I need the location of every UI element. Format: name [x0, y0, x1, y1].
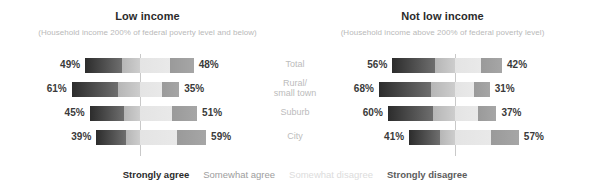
agree-percent-label: 61%: [47, 83, 67, 94]
segment-strongly-disagree: [162, 82, 179, 97]
segment-strongly-agree: [85, 58, 122, 73]
disagree-percent-label: 57%: [524, 131, 544, 142]
disagree-percent-label: 59%: [211, 131, 231, 142]
segment-somewhat-agree: [433, 106, 455, 121]
segment-somewhat-agree: [126, 130, 140, 145]
category-label-line: Rural/: [248, 78, 342, 88]
segment-strongly-agree: [392, 58, 435, 73]
segment-somewhat-agree: [435, 58, 455, 73]
segment-somewhat-disagree: [455, 82, 474, 97]
segment-strongly-disagree: [170, 58, 194, 73]
category-label: Rural/small town: [248, 78, 342, 98]
category-label: Total: [248, 59, 342, 69]
segment-strongly-disagree: [481, 58, 502, 73]
category-label-line: Suburb: [248, 107, 342, 117]
stacked-bar: [409, 130, 519, 145]
segment-somewhat-disagree: [140, 106, 172, 121]
category-label-line: City: [248, 131, 342, 141]
segment-somewhat-agree: [118, 82, 140, 97]
agree-percent-label: 45%: [65, 107, 85, 118]
disagree-percent-label: 48%: [199, 59, 219, 70]
chart-legend: Strongly agree Somewhat agree Somewhat d…: [0, 164, 590, 184]
disagree-percent-label: 37%: [501, 107, 521, 118]
legend-strongly-disagree: Strongly disagree: [387, 169, 467, 180]
agree-percent-label: 41%: [384, 131, 404, 142]
segment-strongly-disagree: [172, 106, 197, 121]
category-labels: TotalRural/small townSuburbCity: [248, 54, 342, 156]
agree-percent-label: 68%: [354, 83, 374, 94]
stacked-bar: [85, 58, 194, 73]
disagree-percent-label: 31%: [495, 83, 515, 94]
category-label: City: [248, 131, 342, 141]
category-label: Suburb: [248, 107, 342, 117]
segment-strongly-agree: [379, 82, 431, 97]
category-label-line: Total: [248, 59, 342, 69]
legend-somewhat-disagree: Somewhat disagree: [289, 169, 373, 180]
segment-somewhat-disagree: [140, 82, 162, 97]
segment-somewhat-agree: [122, 58, 140, 73]
segment-strongly-disagree: [177, 130, 206, 145]
segment-strongly-agree: [72, 82, 118, 97]
stacked-bar: [388, 106, 497, 121]
segment-strongly-agree: [90, 106, 124, 121]
segment-strongly-disagree: [474, 82, 489, 97]
segment-somewhat-disagree: [455, 58, 481, 73]
agree-percent-label: 56%: [367, 59, 387, 70]
stacked-bar: [392, 58, 502, 73]
agree-percent-label: 60%: [363, 107, 383, 118]
stacked-bar: [379, 82, 490, 97]
segment-strongly-agree: [388, 106, 434, 121]
disagree-percent-label: 51%: [202, 107, 222, 118]
stacked-bar: [72, 82, 180, 97]
disagree-percent-label: 35%: [184, 83, 204, 94]
segment-somewhat-agree: [124, 106, 140, 121]
panel-left-subtitle: (Household income 200% of federal povert…: [0, 28, 295, 37]
panel-right-subtitle: (Household income above 200% of federal …: [295, 28, 590, 37]
agree-percent-label: 39%: [71, 131, 91, 142]
stacked-bar: [90, 106, 198, 121]
panel-right-title: Not low income: [295, 10, 590, 22]
legend-somewhat-agree: Somewhat agree: [203, 169, 275, 180]
legend-strongly-agree: Strongly agree: [123, 169, 190, 180]
segment-somewhat-agree: [431, 82, 455, 97]
segment-somewhat-agree: [440, 130, 455, 145]
segment-somewhat-disagree: [455, 106, 478, 121]
segment-somewhat-disagree: [140, 58, 170, 73]
agree-percent-label: 49%: [60, 59, 80, 70]
segment-strongly-agree: [96, 130, 126, 145]
panel-left-title: Low income: [0, 10, 295, 22]
segment-somewhat-disagree: [455, 130, 491, 145]
chart-panels: Low income (Household income 200% of fed…: [0, 0, 590, 160]
disagree-percent-label: 42%: [507, 59, 527, 70]
segment-strongly-disagree: [478, 106, 496, 121]
category-label-line: small town: [248, 88, 342, 98]
segment-strongly-disagree: [491, 130, 519, 145]
stacked-bar: [96, 130, 206, 145]
segment-somewhat-disagree: [140, 130, 177, 145]
segment-strongly-agree: [409, 130, 440, 145]
